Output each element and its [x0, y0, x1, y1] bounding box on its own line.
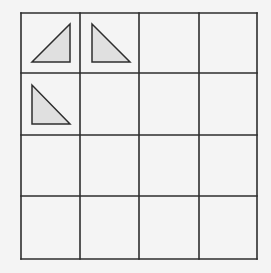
grid-cell-r2c0: [21, 135, 80, 196]
grid-cell-r1c2: [139, 73, 199, 135]
grid-cell-r0c3: [199, 13, 257, 73]
grid-cell-r3c2: [139, 196, 199, 259]
grid-cell-r1c1: [80, 73, 139, 135]
grid-svg: [0, 0, 271, 273]
grid-cell-r0c2: [139, 13, 199, 73]
grid-cell-r3c3: [199, 196, 257, 259]
grid-diagram: [0, 0, 271, 273]
grid-cell-r2c1: [80, 135, 139, 196]
grid-cell-r2c2: [139, 135, 199, 196]
grid-cell-r1c3: [199, 73, 257, 135]
grid-cell-r2c3: [199, 135, 257, 196]
grid-cell-r3c1: [80, 196, 139, 259]
grid-cell-r3c0: [21, 196, 80, 259]
